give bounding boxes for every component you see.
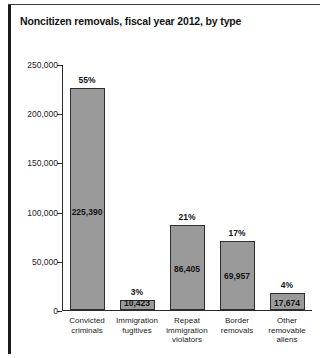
y-tick-label: 0 [53,306,58,316]
bar-group[interactable]: 55%225,390 [70,64,105,310]
bar-value-label: 10,423 [124,298,150,308]
x-category-label-line: fugitives [112,326,162,336]
bar-group[interactable]: 3%10,423 [120,64,155,310]
y-tick-label: 150,000 [27,158,58,168]
x-category-label-line: removals [212,326,262,336]
x-category-label-line: removable [262,326,312,336]
bar-group[interactable]: 21%86,405 [170,64,205,310]
x-category-label: Convictedcriminals [62,316,112,335]
chart-title: Noncitizen removals, fiscal year 2012, b… [20,15,310,27]
y-axis-line [62,65,63,311]
bar-value-label: 69,957 [224,271,250,281]
bar-percent-label: 17% [228,228,245,238]
x-category-label-line: Other [262,316,312,326]
figure-container: Noncitizen removals, fiscal year 2012, b… [0,0,322,358]
bar-percent-label: 55% [78,75,95,85]
bar-percent-label: 3% [131,287,143,297]
y-tick-label: 50,000 [32,257,58,267]
y-tick-label: 100,000 [27,208,58,218]
x-category-label-line: Border [212,316,262,326]
bar[interactable] [70,88,105,310]
x-category-label-line: immigration [162,326,212,336]
x-category-label: Borderremovals [212,316,262,335]
frame-top-rule [8,4,320,5]
bar-value-label: 17,674 [274,298,300,308]
x-category-label-line: Repeat [162,316,212,326]
x-category-label-line: Immigration [112,316,162,326]
frame-left-rule [8,4,11,354]
y-tick-label: 250,000 [27,60,58,70]
bar-percent-label: 4% [281,280,293,290]
bar-percent-label: 21% [178,212,195,222]
x-axis-line [62,310,312,311]
x-category-label-line: violators [162,335,212,345]
x-category-label-line: criminals [62,326,112,336]
x-category-label-line: Convicted [62,316,112,326]
x-category-label: Otherremovablealiens [262,316,312,345]
x-category-label: Repeatimmigrationviolators [162,316,212,345]
plot-area: 050,000100,000150,000200,000250,000 55%2… [62,65,312,311]
bar-group[interactable]: 17%69,957 [220,64,255,310]
x-category-label: Immigrationfugitives [112,316,162,335]
bar-group[interactable]: 4%17,674 [270,64,305,310]
y-tick-label: 200,000 [27,109,58,119]
bar-value-label: 225,390 [72,207,103,217]
x-category-label-line: aliens [262,335,312,345]
bar-value-label: 86,405 [174,264,200,274]
